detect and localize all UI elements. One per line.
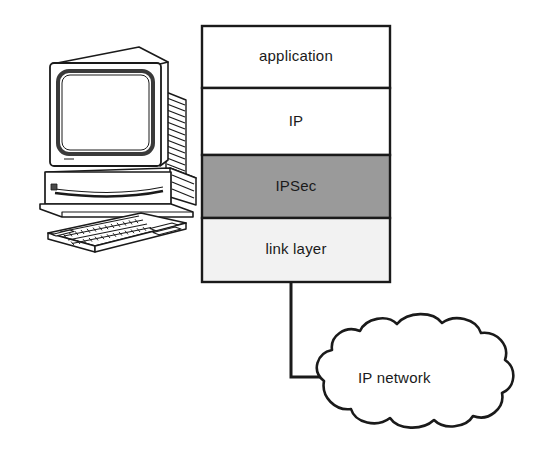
ip-network-label: IP network xyxy=(358,369,431,386)
diagram-svg xyxy=(0,0,541,463)
case-side-vent xyxy=(170,168,196,205)
case-power-indicator xyxy=(51,184,57,190)
case-front-body xyxy=(45,172,171,204)
stack-layer-ip xyxy=(202,88,390,155)
crt-screen xyxy=(62,75,149,150)
desktop-workstation-icon xyxy=(40,47,196,252)
monitor-top-face xyxy=(52,47,168,64)
keyboard-icon xyxy=(48,213,186,252)
stack-layer-link-layer xyxy=(202,218,390,282)
stack-layer-application xyxy=(202,26,390,88)
monitor-vent-panel xyxy=(166,92,186,178)
stack-layer-ipsec xyxy=(202,155,390,218)
protocol-stack xyxy=(202,26,390,282)
diagram-canvas: application IP IPSec link layer IP netwo… xyxy=(0,0,541,463)
case-base xyxy=(40,204,193,217)
